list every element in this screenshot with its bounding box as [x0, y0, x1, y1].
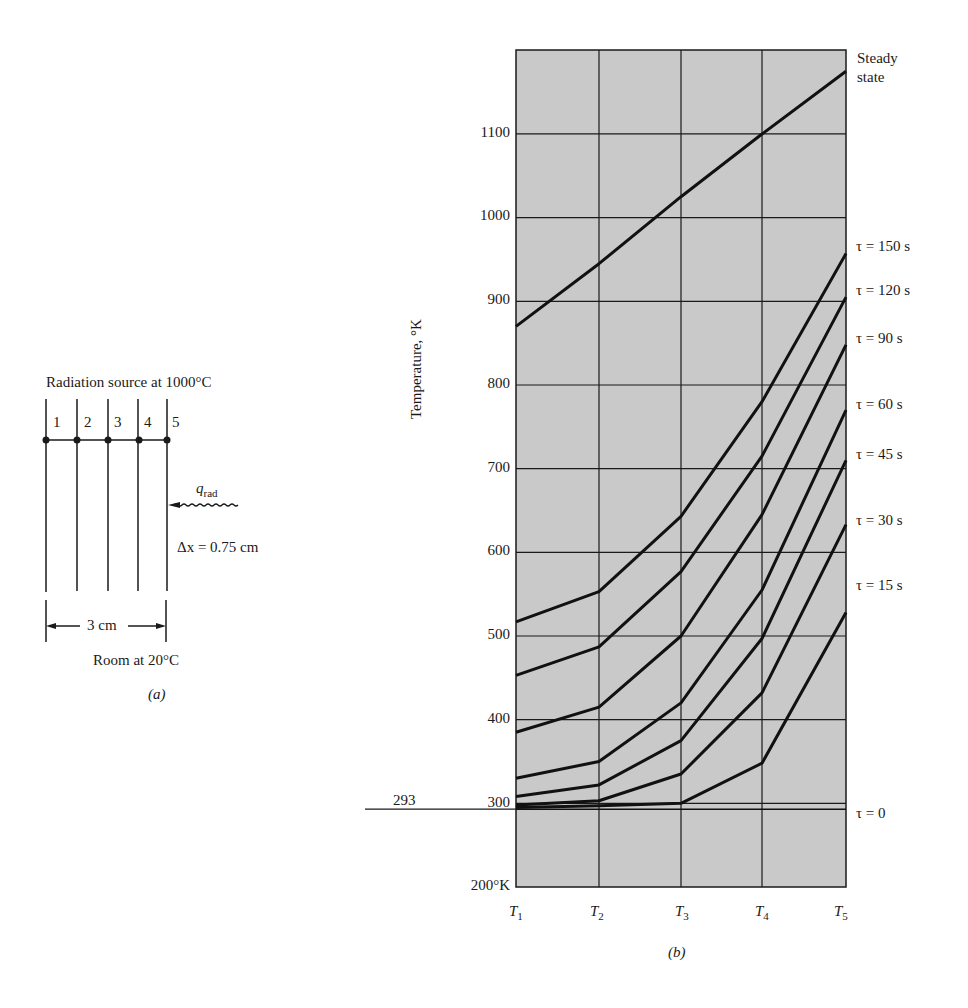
y-axis-label-text: Temperature, °K	[408, 319, 424, 419]
y-tick-900: 900	[488, 291, 511, 308]
label-tau-60: τ = 60 s	[856, 396, 903, 413]
y-axis-label: Temperature, °K	[408, 319, 425, 419]
y-tick-1100: 1100	[481, 124, 510, 141]
y-tick-500: 500	[488, 626, 511, 643]
caption-b: (b)	[668, 944, 686, 961]
y-tick-700: 700	[488, 459, 511, 476]
label-tau-0: τ = 0	[856, 805, 886, 822]
label-tau-45: τ = 45 s	[856, 446, 903, 463]
x-tick-t2: T2	[590, 903, 604, 922]
label-tau-90: τ = 90 s	[856, 330, 903, 347]
y-tick-1000: 1000	[480, 207, 510, 224]
chart-plot-area	[0, 0, 968, 1008]
x-tick-t5: T5	[834, 903, 848, 922]
y-tick-400: 400	[488, 710, 511, 727]
reference-293-label: 293	[393, 792, 416, 809]
x-tick-t3: T3	[675, 903, 689, 922]
label-tau-150: τ = 150 s	[856, 238, 910, 255]
y-tick-200: 200°K	[471, 877, 510, 894]
label-tau-15: τ = 15 s	[856, 577, 903, 594]
label-tau-120: τ = 120 s	[856, 282, 910, 299]
x-tick-t4: T4	[755, 903, 769, 922]
label-tau-30: τ = 30 s	[856, 512, 903, 529]
label-steady-state: Steady state	[857, 49, 898, 87]
x-tick-t1: T1	[509, 903, 523, 922]
y-tick-800: 800	[488, 375, 511, 392]
y-tick-300: 300	[488, 794, 511, 811]
y-tick-600: 600	[488, 542, 511, 559]
